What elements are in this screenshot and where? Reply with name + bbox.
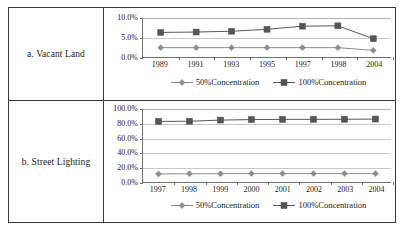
plot-wrap: 0.0%5.0%10.0% xyxy=(104,18,391,58)
x-axis-tick-mark xyxy=(250,57,251,60)
x-axis-tick-mark xyxy=(322,57,323,60)
y-axis-tick-label: 0.0% xyxy=(121,54,138,62)
x-axis-tick-mark xyxy=(299,182,300,185)
legend-square-marker-icon xyxy=(273,201,295,210)
chart-cell-street-lighting: 0.0%20.0%40.0%60.0%80.0%100.0%1997199819… xyxy=(104,101,395,222)
y-axis-tick-label: 40.0% xyxy=(117,149,138,157)
x-axis-tick-mark xyxy=(357,57,358,60)
y-axis-tick-label: 60.0% xyxy=(117,135,138,143)
series-50-concentration xyxy=(158,45,377,54)
legend-item[interactable]: 100%Concentration xyxy=(273,201,366,210)
x-axis-tick-mark xyxy=(174,182,175,185)
legend-label: 50%Concentration xyxy=(196,78,260,87)
x-axis-tick-mark xyxy=(179,57,180,60)
y-axis-tick-label: 80.0% xyxy=(117,120,138,128)
table-row: b. Street Lighting 0.0%20.0%40.0%60.0%80… xyxy=(9,101,395,222)
x-axis-tick-label: 2004 xyxy=(368,186,384,194)
series-50-concentration xyxy=(156,171,379,177)
x-axis-tick-label: 1998 xyxy=(330,61,346,69)
x-axis-tick-label: 1999 xyxy=(212,186,228,194)
series-layer xyxy=(143,109,391,182)
legend-diamond-marker-icon xyxy=(171,201,193,210)
y-axis: 0.0%5.0%10.0% xyxy=(104,18,142,58)
chart-cell-vacant-land: 0.0%5.0%10.0%198919911993199519971998200… xyxy=(104,8,395,100)
y-axis-tick-label: 0.0% xyxy=(121,179,138,187)
x-axis-tick-mark xyxy=(393,182,394,185)
x-axis-tick-mark xyxy=(237,182,238,185)
x-axis-tick-mark xyxy=(331,182,332,185)
chart-legend: 50%Concentration100%Concentration xyxy=(142,78,395,87)
x-axis-tick-mark xyxy=(268,182,269,185)
x-axis-tick-mark xyxy=(286,57,287,60)
y-axis: 0.0%20.0%40.0%60.0%80.0%100.0% xyxy=(104,109,142,183)
legend-item[interactable]: 100%Concentration xyxy=(273,78,366,87)
x-axis-tick-label: 1989 xyxy=(152,61,168,69)
x-axis-tick-mark xyxy=(206,182,207,185)
legend-item[interactable]: 50%Concentration xyxy=(171,201,260,210)
row-label-text: a. Vacant Land xyxy=(27,49,85,59)
legend-item[interactable]: 50%Concentration xyxy=(171,78,260,87)
series-100-concentration xyxy=(156,116,379,124)
row-label-street-lighting: b. Street Lighting xyxy=(9,101,104,222)
x-axis-tick-label: 1998 xyxy=(181,186,197,194)
legend-label: 100%Concentration xyxy=(298,78,366,87)
plot-wrap: 0.0%20.0%40.0%60.0%80.0%100.0% xyxy=(104,109,391,183)
series-100-concentration xyxy=(158,23,377,42)
y-axis-tick-label: 10.0% xyxy=(117,14,138,22)
line-chart-street-lighting: 0.0%20.0%40.0%60.0%80.0%100.0%1997199819… xyxy=(104,101,395,222)
y-axis-tick-label: 5.0% xyxy=(121,34,138,42)
legend-label: 100%Concentration xyxy=(298,201,366,210)
y-axis-tick-mark xyxy=(140,58,143,59)
chart-legend: 50%Concentration100%Concentration xyxy=(142,201,395,210)
figure-table: a. Vacant Land 0.0%5.0%10.0%198919911993… xyxy=(8,7,396,223)
x-axis-tick-label: 1993 xyxy=(223,61,239,69)
legend-square-marker-icon xyxy=(273,78,295,87)
x-axis-tick-mark xyxy=(393,57,394,60)
y-axis-tick-label: 20.0% xyxy=(117,164,138,172)
plot-area xyxy=(142,109,391,183)
row-label-text: b. Street Lighting xyxy=(22,157,91,167)
x-axis-tick-label: 1997 xyxy=(150,186,166,194)
x-axis-tick-mark xyxy=(362,182,363,185)
y-axis-tick-label: 100.0% xyxy=(113,105,138,113)
legend-diamond-marker-icon xyxy=(171,78,193,87)
series-layer xyxy=(143,18,391,57)
x-axis-tick-label: 1997 xyxy=(295,61,311,69)
x-axis-tick-label: 2003 xyxy=(337,186,353,194)
table-row: a. Vacant Land 0.0%5.0%10.0%198919911993… xyxy=(9,8,395,101)
x-axis-tick-label: 1991 xyxy=(188,61,204,69)
x-axis-tick-label: 1995 xyxy=(259,61,275,69)
legend-label: 50%Concentration xyxy=(196,201,260,210)
x-axis-tick-mark xyxy=(214,57,215,60)
x-axis-tick-label: 2002 xyxy=(306,186,322,194)
row-label-vacant-land: a. Vacant Land xyxy=(9,8,104,100)
line-chart-vacant-land: 0.0%5.0%10.0%198919911993199519971998200… xyxy=(104,8,395,100)
plot-area xyxy=(142,18,391,58)
x-axis-tick-label: 2004 xyxy=(366,61,382,69)
x-axis-tick-label: 2000 xyxy=(243,186,259,194)
y-axis-tick-mark xyxy=(140,183,143,184)
x-axis-tick-label: 2001 xyxy=(275,186,291,194)
